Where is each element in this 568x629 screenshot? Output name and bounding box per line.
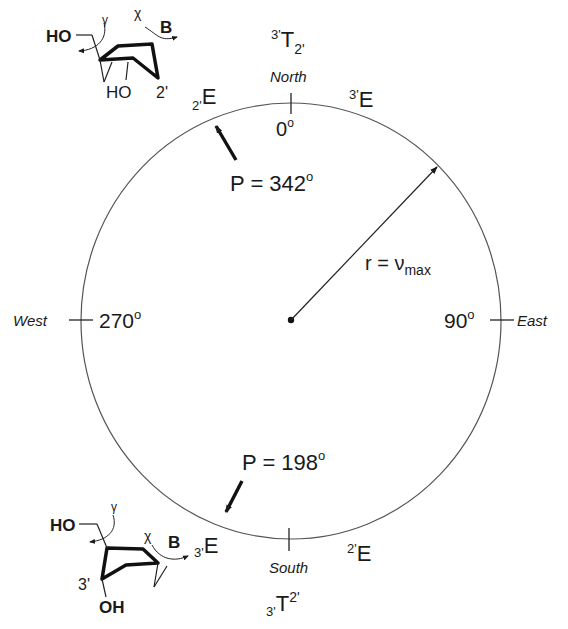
sugar-structure-bottom: HO γ χ B 3' OH — [50, 500, 188, 617]
radius-label: r = νmax — [365, 252, 431, 278]
p198-arrow — [226, 481, 242, 512]
svg-text:HO: HO — [46, 27, 72, 46]
svg-text:B: B — [160, 18, 172, 37]
conformer-3T2-bottom: 3'T2' — [266, 589, 300, 619]
svg-text:2': 2' — [156, 84, 168, 101]
conformer-3E-c3exo: 3'E — [194, 533, 218, 560]
svg-text:χ: χ — [144, 528, 152, 544]
west-label: West — [13, 312, 48, 329]
north-label: North — [270, 68, 307, 85]
conformer-3E-c3endo: 3'E — [349, 87, 373, 112]
sugar-structure-top: HO γ χ B HO 2' — [46, 5, 177, 102]
conformer-2E-c2exo: 2'E — [347, 541, 371, 566]
svg-text:HO: HO — [106, 83, 132, 102]
conformer-3T2-top: 3'T2' — [271, 27, 305, 57]
north-angle: 0o — [276, 116, 294, 140]
p342-label: P = 342o — [230, 169, 313, 196]
svg-text:χ: χ — [134, 5, 142, 21]
svg-text:γ: γ — [102, 13, 108, 27]
pseudorotation-diagram: North 0o South West 270o 90o East 3'T2' … — [0, 0, 568, 629]
svg-text:B: B — [168, 533, 180, 552]
p342-arrow — [216, 126, 236, 160]
svg-text:OH: OH — [99, 598, 125, 617]
east-label: East — [517, 312, 548, 329]
svg-text:γ: γ — [111, 500, 117, 514]
west-angle: 270o — [99, 307, 141, 332]
east-angle: 90o — [444, 307, 475, 332]
svg-text:3': 3' — [78, 576, 90, 593]
svg-text:HO: HO — [50, 516, 76, 535]
south-label: South — [269, 559, 308, 576]
radius-arrow — [291, 167, 437, 320]
conformer-2E-c2endo: 2'E — [192, 84, 216, 113]
p198-label: P = 198o — [242, 448, 325, 475]
